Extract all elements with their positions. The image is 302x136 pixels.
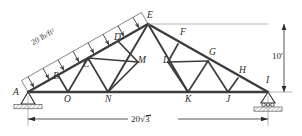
member-B-O [58,75,68,92]
joint-label-L: L [163,56,168,66]
joint-label-M: M [138,56,146,66]
joint-label-F: F [180,28,186,38]
joint-label-G: G [209,48,216,58]
joint-label-D: D [114,33,121,43]
joint-label-E: E [147,11,153,21]
truss-figure-container: A B C D E F G H I J K L M N O 20 lb/ft² … [0,0,302,136]
member-J-H [228,78,238,92]
joint-label-H: H [239,66,246,76]
sqrt-icon: √ [140,115,145,124]
load-cap-left [22,81,29,93]
member-C-N [88,58,108,92]
joint-label-B: B [53,72,59,82]
joint-label-K: K [185,95,191,105]
member-L-G [168,61,208,62]
span-number: 20 [131,114,140,124]
height-dimension-label: 10' [272,52,283,61]
joint-label-N: N [105,95,111,105]
member-C-M [88,58,138,62]
truss-members [28,24,292,92]
member-F-L [168,44,178,62]
joint-label-I: I [266,76,269,86]
joint-label-O: O [64,95,71,105]
span-dimension-label: 20√3' [131,113,151,124]
member-K-G [188,61,208,92]
joint-label-C: C [83,60,89,70]
joint-label-J: J [226,95,230,105]
member-L-K [168,62,188,92]
joint-label-A: A [13,88,19,98]
member-G-J [208,61,228,92]
